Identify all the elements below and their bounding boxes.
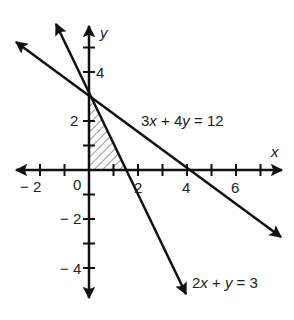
x-tick-label-0: 0	[73, 176, 81, 193]
equation-label-line1: 3x + 4y = 12	[141, 112, 224, 129]
y-tick-label-4: 4	[96, 64, 104, 81]
x-tick-label-neg2: − 2	[20, 178, 41, 195]
x-axis-label: x	[270, 143, 279, 160]
y-tick-label-2: 2	[70, 112, 78, 129]
y-axis-label: y	[99, 24, 109, 41]
y-tick-label-neg2: − 2	[60, 210, 81, 227]
coordinate-graph: y x − 2 0 2 4 6 4 2 − 2 − 4 3x + 4y = 12…	[0, 0, 294, 320]
line-3x-plus-4y-eq-12	[16, 42, 281, 237]
y-tick-label-neg4: − 4	[60, 260, 81, 277]
equation-label-line2: 2x + y = 3	[192, 274, 258, 291]
line-2x-plus-y-eq-3	[56, 24, 186, 294]
x-tick-label-2: 2	[134, 179, 142, 196]
x-tick-label-6: 6	[231, 179, 239, 196]
x-axis	[16, 164, 282, 176]
x-tick-label-4: 4	[182, 179, 190, 196]
